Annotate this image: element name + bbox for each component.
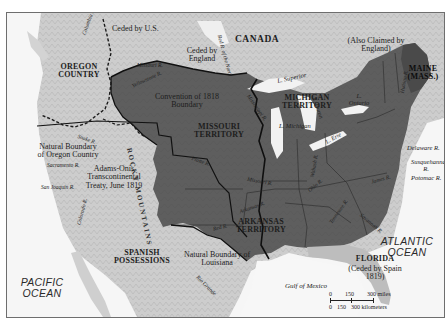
- label-oregon-country: OREGON COUNTRY: [54, 63, 104, 80]
- label-ceded-by-england: Ceded by England: [179, 47, 225, 64]
- label-susquehanna-river: Susquehanna R.: [411, 159, 441, 173]
- label-lake-ontario: L. Ontario: [347, 93, 371, 107]
- label-atlantic-ocean: ATLANTIC OCEAN: [377, 236, 437, 258]
- label-pacific-ocean: PACIFIC OCEAN: [17, 277, 67, 299]
- historical-map: CANADA Ceded by U.S. Ceded by England (A…: [6, 12, 445, 318]
- label-ceded-by-us: Ceded by U.S.: [112, 25, 159, 33]
- label-lake-michigan: L. Michigan: [279, 123, 311, 130]
- label-potomac-river: Potomac R.: [411, 175, 441, 182]
- label-maine: MAINE (MASS.): [405, 65, 441, 82]
- scale-bar: 0 150 300 miles 0 150 300 kilometers: [329, 291, 439, 318]
- scale-miles-0: 0: [329, 291, 332, 297]
- label-missouri-river-upper: Missouri R.: [137, 63, 163, 69]
- scale-tick: [373, 298, 374, 303]
- label-florida-note: (Ceded by Spain 1819): [343, 265, 407, 282]
- label-canada: CANADA: [235, 35, 279, 45]
- label-also-claimed: (Also Claimed by England): [341, 37, 411, 54]
- label-natural-boundary-oregon: Natural Boundary of Oregon Country: [35, 143, 101, 160]
- scale-miles-300: 300 miles: [367, 291, 391, 297]
- label-michigan-territory: MICHIGAN TERRITORY: [275, 94, 339, 111]
- label-sacramento-river: Sacramento R.: [47, 163, 79, 169]
- label-missouri-territory: MISSOURI TERRITORY: [187, 123, 251, 140]
- scale-km-300: 300 kilometers: [351, 304, 387, 310]
- label-san-joaquin-river: San Joaquin R.: [41, 185, 74, 191]
- scale-km-150: 150: [337, 304, 346, 310]
- scale-miles-150: 150: [345, 291, 354, 297]
- scale-tick: [330, 298, 331, 303]
- label-natural-boundary-louisiana: Natural Boundary of Louisiana: [177, 251, 257, 268]
- label-gulf-of-mexico: Gulf of Mexico: [285, 283, 327, 290]
- scale-line: [330, 300, 374, 301]
- label-delaware-river: Delaware R.: [407, 145, 440, 152]
- scale-km-0: 0: [329, 304, 332, 310]
- label-arkansas-territory: ARKANSAS TERRITORY: [232, 218, 290, 235]
- scale-tick: [351, 298, 352, 303]
- label-convention-1818: Convention of 1818 Boundary: [155, 93, 219, 110]
- label-spanish-possessions: SPANISH POSSESSIONS: [107, 249, 177, 266]
